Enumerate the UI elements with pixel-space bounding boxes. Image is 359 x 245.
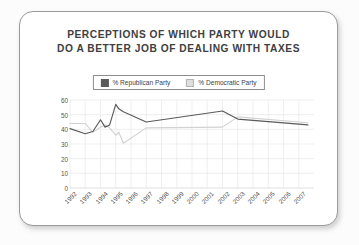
chart-card: PERCEPTIONS OF WHICH PARTY WOULD DO A BE… bbox=[19, 11, 338, 226]
title-line-2: DO A BETTER JOB OF DEALING WITH TAXES bbox=[20, 42, 337, 56]
plot-area bbox=[70, 100, 314, 188]
legend-item-democratic: % Democratic Party bbox=[186, 79, 256, 87]
x-axis-tick-2001: 2001 bbox=[200, 190, 215, 205]
page-title: PERCEPTIONS OF WHICH PARTY WOULD DO A BE… bbox=[20, 28, 337, 55]
plot-wrapper: 0102030405060 19921993199419951996199719… bbox=[20, 100, 339, 200]
x-axis-tick-2003: 2003 bbox=[231, 190, 246, 205]
y-axis-tick-40: 40 bbox=[61, 126, 68, 133]
x-axis-tick-2000: 2000 bbox=[185, 190, 200, 205]
x-axis-tick-1993: 1993 bbox=[78, 190, 93, 205]
legend-item-republican: % Republican Party bbox=[100, 79, 170, 87]
chart-page: PERCEPTIONS OF WHICH PARTY WOULD DO A BE… bbox=[0, 0, 359, 245]
x-axis-tick-1997: 1997 bbox=[139, 190, 154, 205]
x-axis-tick-1999: 1999 bbox=[170, 190, 185, 205]
chart-svg bbox=[70, 100, 314, 188]
legend-label-democratic: % Democratic Party bbox=[198, 79, 256, 86]
x-axis-tick-1994: 1994 bbox=[94, 190, 109, 205]
chart-legend: % Republican Party % Democratic Party bbox=[92, 75, 264, 90]
y-axis-tick-20: 20 bbox=[61, 155, 68, 162]
y-axis-labels: 0102030405060 bbox=[46, 100, 68, 188]
x-axis-tick-1995: 1995 bbox=[109, 190, 124, 205]
x-axis-tick-1996: 1996 bbox=[124, 190, 139, 205]
legend-label-republican: % Republican Party bbox=[112, 79, 170, 86]
x-axis-tick-2006: 2006 bbox=[277, 190, 292, 205]
x-axis-tick-2005: 2005 bbox=[261, 190, 276, 205]
x-axis-labels: 1992199319941995199619971998199920002001… bbox=[70, 190, 314, 230]
x-axis-tick-2002: 2002 bbox=[216, 190, 231, 205]
x-axis-tick-1998: 1998 bbox=[155, 190, 170, 205]
y-axis-tick-50: 50 bbox=[61, 111, 68, 118]
legend-swatch-republican-icon bbox=[100, 79, 108, 87]
x-axis-tick-2007: 2007 bbox=[292, 190, 307, 205]
legend-swatch-democratic-icon bbox=[186, 79, 194, 87]
y-axis-tick-30: 30 bbox=[61, 141, 68, 148]
x-axis-tick-2004: 2004 bbox=[246, 190, 261, 205]
x-axis-tick-1992: 1992 bbox=[63, 190, 78, 205]
y-axis-tick-60: 60 bbox=[61, 97, 68, 104]
y-axis-tick-10: 10 bbox=[61, 170, 68, 177]
title-line-1: PERCEPTIONS OF WHICH PARTY WOULD bbox=[20, 28, 337, 42]
y-axis-tick-0: 0 bbox=[64, 185, 68, 192]
